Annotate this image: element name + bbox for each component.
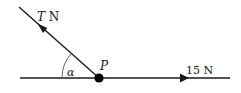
point-p-dot [94, 73, 103, 82]
angle-label: α [67, 67, 74, 78]
tension-unit: N [45, 10, 59, 24]
force-diagram: T N 15 N P α [0, 0, 241, 93]
tension-symbol: T [37, 10, 45, 24]
point-label: P [100, 60, 108, 72]
tension-force-label: T N [37, 11, 59, 23]
horizontal-force-label: 15 N [186, 65, 213, 76]
